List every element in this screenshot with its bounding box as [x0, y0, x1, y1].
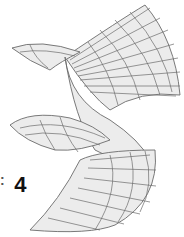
surface-figure: [0, 0, 184, 237]
label-value: 4: [14, 172, 28, 197]
helicoid-surface: [0, 0, 184, 237]
label-prefix: :: [0, 172, 6, 188]
parameter-label: : 4: [0, 172, 28, 198]
